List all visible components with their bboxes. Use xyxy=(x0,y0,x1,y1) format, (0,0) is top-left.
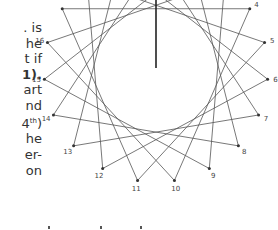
vertex-dot xyxy=(173,179,176,182)
vertex-label: 12 xyxy=(94,172,103,180)
star-edge xyxy=(74,115,259,146)
vertex-dot xyxy=(237,144,240,147)
vertex-label: 15 xyxy=(32,76,41,84)
vertex-dot xyxy=(72,144,75,147)
vertex-label: 11 xyxy=(132,185,141,193)
vertex-label: 10 xyxy=(171,185,180,193)
vertex-dot xyxy=(263,41,266,44)
vertex-label: 7 xyxy=(264,115,268,123)
vertex-dot xyxy=(46,41,49,44)
star-edge xyxy=(156,0,259,115)
vertex-dot xyxy=(52,113,55,116)
vertex-label: 8 xyxy=(242,148,246,156)
vertex-dot xyxy=(101,167,104,170)
text-fragment-mark xyxy=(100,226,102,229)
vertex-dot xyxy=(208,167,211,170)
star-edge xyxy=(120,0,268,79)
star-edge xyxy=(44,0,192,79)
vertex-label: 9 xyxy=(211,172,215,180)
star-edge xyxy=(53,0,156,115)
vertex-label: 6 xyxy=(273,76,278,84)
text-fragment-mark xyxy=(140,226,142,229)
text-fragment-mark xyxy=(48,226,50,229)
vertex-dot xyxy=(266,78,269,81)
vertex-dot xyxy=(257,113,260,116)
star-edge xyxy=(53,115,238,146)
page: . ishet if1).artnd4th)heer-on 3456789101… xyxy=(0,0,278,230)
vertex-label: 4 xyxy=(254,1,259,9)
vertex-dot xyxy=(61,7,64,10)
vertex-label: 14 xyxy=(42,115,51,123)
vertex-dot xyxy=(136,179,139,182)
vertex-dot xyxy=(43,78,46,81)
star-polygon-diagram: 345678910111213141516 xyxy=(0,0,278,230)
vertex-label: 16 xyxy=(35,37,44,45)
vertex-dot xyxy=(248,7,251,10)
vertex-label: 13 xyxy=(63,148,72,156)
vertex-label: 5 xyxy=(270,37,274,45)
